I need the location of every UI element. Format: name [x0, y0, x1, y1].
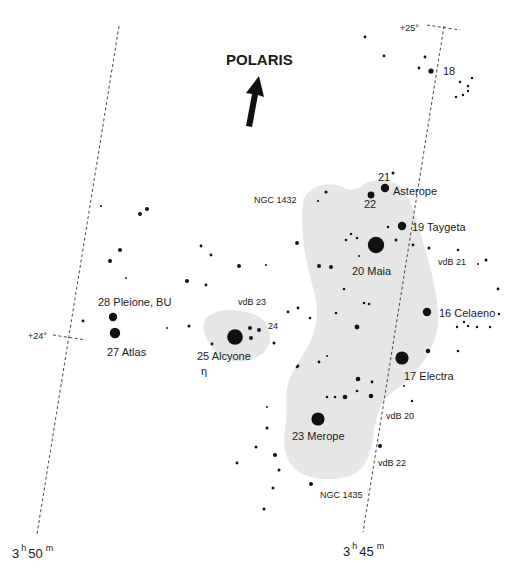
- label-ngc1435: NGC 1435: [320, 490, 363, 500]
- label-22: 22: [364, 198, 376, 210]
- label-24: 24: [268, 321, 278, 331]
- label-asterope: Asterope: [393, 185, 437, 197]
- label-vdb21: vdB 21: [438, 257, 466, 267]
- star-asterope: [381, 184, 389, 192]
- star-18: [428, 68, 433, 73]
- star-merope: [311, 412, 324, 425]
- label-vdb23: vdB 23: [238, 297, 266, 307]
- label-dec-25: +25°: [400, 23, 419, 33]
- polaris-marker: POLARIS: [226, 51, 293, 127]
- label-ngc1432: NGC 1432: [254, 195, 297, 205]
- polaris-label: POLARIS: [226, 51, 293, 68]
- star-taygeta: [398, 222, 406, 230]
- star-electra: [395, 351, 408, 364]
- dec-tick-25: [427, 25, 460, 30]
- ra-line-3h50m: [37, 26, 119, 534]
- label-ra-3h50m: 3h50m: [12, 543, 53, 561]
- ra-labels: 3h50m 3h45m: [12, 541, 384, 561]
- label-merope: 23 Merope: [292, 430, 345, 442]
- label-atlas: 27 Atlas: [107, 346, 147, 358]
- star-celaeno: [423, 308, 431, 316]
- star-alcyone: [227, 329, 243, 345]
- label-eta: η: [201, 365, 207, 377]
- label-maia: 20 Maia: [352, 265, 392, 277]
- label-21: 21: [378, 171, 390, 183]
- label-ra-3h45m: 3h45m: [343, 541, 384, 559]
- label-dec-24: +24°: [28, 331, 47, 341]
- arrow-up-icon: [246, 76, 264, 127]
- label-vdb22: vdB 22: [378, 458, 406, 468]
- star-chart: POLARIS: [0, 0, 515, 575]
- label-alcyone: 25 Alcyone: [197, 350, 251, 362]
- label-electra: 17 Electra: [404, 370, 454, 382]
- label-pleione: 28 Pleione, BU: [98, 296, 171, 308]
- label-celaeno: 16 Celaeno: [439, 307, 495, 319]
- star-maia: [368, 237, 384, 253]
- label-18: 18: [443, 65, 455, 77]
- dec-tick-24: [53, 335, 86, 340]
- label-vdb20: vdB 20: [386, 411, 414, 421]
- label-taygeta: 19 Taygeta: [412, 221, 467, 233]
- star-pleione: [109, 313, 117, 321]
- star-atlas: [110, 328, 120, 338]
